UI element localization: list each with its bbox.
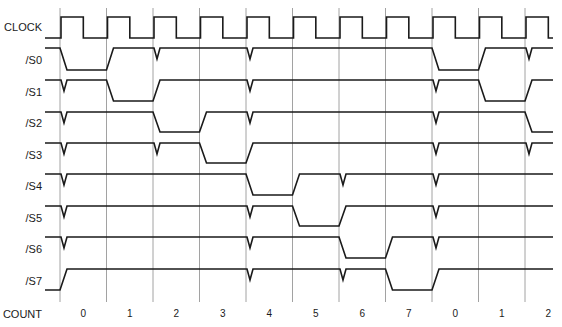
count-value: 5 bbox=[306, 308, 326, 320]
timing-diagram bbox=[0, 0, 562, 327]
count-value: 1 bbox=[492, 308, 512, 320]
signal-traces bbox=[45, 17, 553, 290]
signal-trace-s6 bbox=[45, 237, 553, 258]
count-value: 1 bbox=[120, 308, 140, 320]
signal-trace-s7 bbox=[45, 269, 553, 290]
signal-label-s5: /S5 bbox=[0, 212, 42, 224]
signal-label-s4: /S4 bbox=[0, 180, 42, 192]
clock-edge-gridlines bbox=[60, 8, 525, 302]
signal-trace-s2 bbox=[45, 112, 553, 132]
count-value: 4 bbox=[259, 308, 279, 320]
clock-label: CLOCK bbox=[0, 21, 42, 33]
count-value: 2 bbox=[538, 308, 558, 320]
signal-trace-s1 bbox=[45, 80, 553, 101]
signal-trace-s0 bbox=[45, 48, 553, 70]
count-label: COUNT bbox=[0, 308, 42, 320]
count-value: 0 bbox=[445, 308, 465, 320]
signal-trace-s5 bbox=[45, 206, 553, 226]
clock-trace bbox=[45, 17, 553, 38]
signal-label-s7: /S7 bbox=[0, 275, 42, 287]
count-value: 3 bbox=[213, 308, 233, 320]
signal-trace-s3 bbox=[45, 143, 553, 163]
signal-label-s6: /S6 bbox=[0, 243, 42, 255]
signal-label-s3: /S3 bbox=[0, 149, 42, 161]
signal-label-s2: /S2 bbox=[0, 117, 42, 129]
count-value: 0 bbox=[73, 308, 93, 320]
signal-label-s1: /S1 bbox=[0, 86, 42, 98]
signal-label-s0: /S0 bbox=[0, 54, 42, 66]
signal-trace-s4 bbox=[45, 174, 553, 195]
count-value: 6 bbox=[352, 308, 372, 320]
count-value: 2 bbox=[166, 308, 186, 320]
count-value: 7 bbox=[399, 308, 419, 320]
